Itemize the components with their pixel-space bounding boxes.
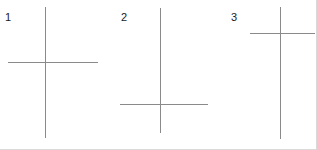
cross-figures-diagram: 1 2 3: [0, 0, 317, 150]
cross-1-vertical-line: [45, 7, 46, 138]
cross-3-vertical-line: [280, 7, 281, 139]
cross-2-vertical-line: [160, 8, 161, 133]
cross-label-3: 3: [231, 12, 237, 23]
cross-2-horizontal-line: [120, 104, 208, 105]
cross-1-horizontal-line: [8, 62, 98, 63]
cross-label-1: 1: [5, 12, 11, 23]
cross-3-horizontal-line: [250, 33, 315, 34]
cross-label-2: 2: [121, 12, 127, 23]
